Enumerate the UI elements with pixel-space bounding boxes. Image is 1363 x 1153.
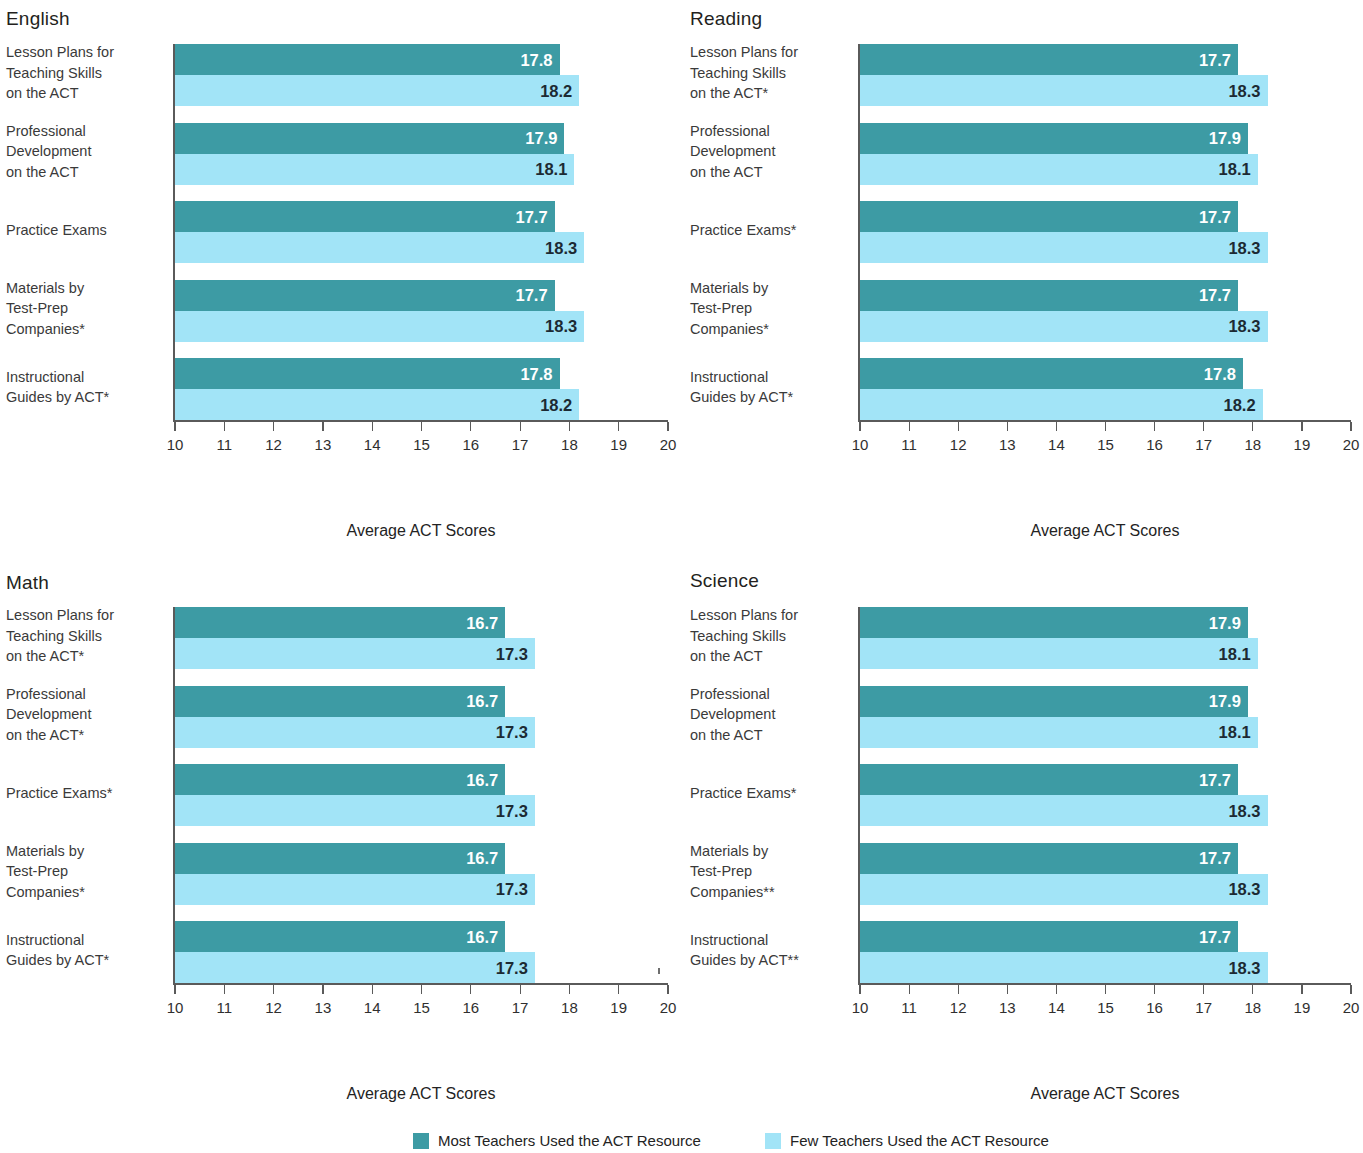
bar-most-teachers: 17.9 xyxy=(860,607,1248,638)
bar-value-label: 18.1 xyxy=(1219,645,1251,662)
category-label: Instructional Guides by ACT** xyxy=(690,930,858,971)
x-tick-mark xyxy=(1154,985,1155,994)
bar-value-label: 17.9 xyxy=(1209,693,1241,710)
bar-most-teachers: 17.7 xyxy=(860,764,1238,795)
x-tick-label: 15 xyxy=(1086,999,1126,1016)
x-tick-label: 19 xyxy=(1282,999,1322,1016)
bar-value-label: 18.3 xyxy=(1228,881,1260,898)
category-label: Practice Exams* xyxy=(690,783,858,804)
x-tick-mark xyxy=(1350,985,1351,994)
x-tick-mark xyxy=(1007,985,1008,994)
x-tick-mark xyxy=(1252,985,1253,994)
y-axis-line xyxy=(858,607,860,983)
bar-value-label: 17.7 xyxy=(1199,850,1231,867)
chart-legend: Most Teachers Used the ACT ResourceFew T… xyxy=(0,1126,1363,1153)
x-tick-label: 17 xyxy=(1184,999,1224,1016)
legend-item-most-teachers: Most Teachers Used the ACT Resource xyxy=(413,1132,701,1149)
x-tick-label: 18 xyxy=(1233,999,1273,1016)
x-tick-mark xyxy=(909,985,910,994)
legend-item-few-teachers: Few Teachers Used the ACT Resource xyxy=(765,1132,1049,1149)
chart-panel-science: ScienceLesson Plans for Teaching Skills … xyxy=(0,0,1363,1153)
bar-value-label: 18.1 xyxy=(1219,724,1251,741)
bar-few-teachers: 18.1 xyxy=(860,717,1258,748)
bar-few-teachers: 18.3 xyxy=(860,874,1268,905)
legend-label: Few Teachers Used the ACT Resource xyxy=(790,1132,1049,1149)
bar-few-teachers: 18.3 xyxy=(860,952,1268,983)
legend-label: Most Teachers Used the ACT Resource xyxy=(438,1132,701,1149)
bar-most-teachers: 17.7 xyxy=(860,843,1238,874)
bar-value-label: 18.3 xyxy=(1228,802,1260,819)
x-tick-label: 10 xyxy=(840,999,880,1016)
print-speck xyxy=(658,968,660,974)
bar-most-teachers: 17.9 xyxy=(860,686,1248,717)
category-label: Professional Development on the ACT xyxy=(690,684,858,746)
x-tick-label: 14 xyxy=(1036,999,1076,1016)
bar-most-teachers: 17.7 xyxy=(860,921,1238,952)
x-tick-label: 16 xyxy=(1135,999,1175,1016)
x-tick-label: 13 xyxy=(987,999,1027,1016)
category-label: Lesson Plans for Teaching Skills on the … xyxy=(690,605,858,667)
bar-few-teachers: 18.1 xyxy=(860,638,1258,669)
legend-swatch-icon xyxy=(765,1133,781,1149)
x-tick-mark xyxy=(1203,985,1204,994)
x-tick-mark xyxy=(859,985,860,994)
x-tick-mark xyxy=(1301,985,1302,994)
figure-canvas: EnglishLesson Plans for Teaching Skills … xyxy=(0,0,1363,1153)
panel-title-science: Science xyxy=(690,570,759,592)
x-tick-label: 12 xyxy=(938,999,978,1016)
category-label: Materials by Test-Prep Companies** xyxy=(690,841,858,903)
x-axis-title: Average ACT Scores xyxy=(975,1085,1235,1103)
bar-value-label: 17.9 xyxy=(1209,614,1241,631)
bar-value-label: 18.3 xyxy=(1228,959,1260,976)
x-tick-label: 20 xyxy=(1331,999,1363,1016)
x-tick-mark xyxy=(1105,985,1106,994)
bar-few-teachers: 18.3 xyxy=(860,795,1268,826)
bar-value-label: 17.7 xyxy=(1199,928,1231,945)
x-tick-label: 11 xyxy=(889,999,929,1016)
legend-swatch-icon xyxy=(413,1133,429,1149)
bar-value-label: 17.7 xyxy=(1199,771,1231,788)
x-tick-mark xyxy=(1056,985,1057,994)
x-tick-mark xyxy=(958,985,959,994)
